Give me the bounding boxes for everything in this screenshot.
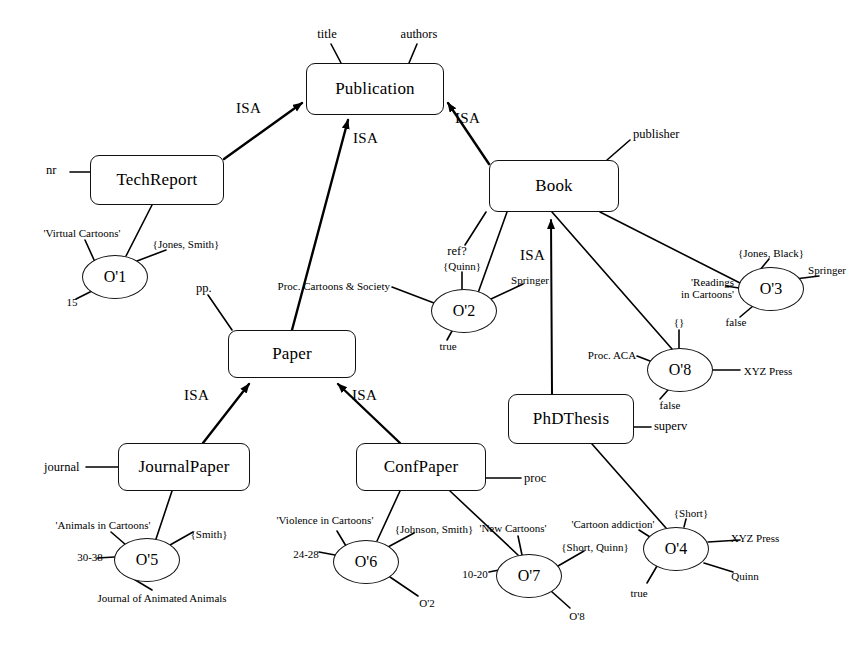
spoke-o2-ref [447,331,452,340]
stem-title [331,44,341,63]
instance-label: O'4 [665,540,687,558]
instance-node-o3[interactable]: O'3 [738,267,804,311]
value-label-o2-ref: true [439,340,456,352]
stem-pp [208,295,232,330]
stem-ref [465,212,486,245]
link-book-o8 [552,212,672,349]
value-label-o5-journal: Journal of Animated Animals [97,592,226,604]
class-label: JournalPaper [138,457,229,477]
value-label-o4-ref: true [630,587,647,599]
value-label-o8-ref: false [660,399,681,411]
attribute-label-journal: journal [44,461,79,475]
class-label: Publication [335,79,415,99]
value-label-o4-title: 'Cartoon addiction' [571,518,654,530]
instance-node-o4[interactable]: O'4 [643,527,709,571]
value-label-o3-ref: false [726,316,747,328]
isa-arrow-paper [292,120,348,330]
instance-label: O'2 [453,302,475,320]
value-label-o8-title: Proc. ACA [588,349,636,361]
spoke-o6-pp [319,552,335,555]
link-book-o3 [600,212,740,283]
isa-arrow-journalpaper [203,384,249,443]
value-label-o5-title: 'Animals in Cartoons' [55,519,150,531]
class-node-book[interactable]: Book [489,160,619,212]
value-label-o5-pp: 30-38 [77,551,103,563]
value-label-o2-publisher: Springer [511,274,549,286]
instance-label: O'6 [355,553,377,571]
isa-label-book-publication: ISA [455,110,480,127]
attribute-label-publisher: publisher [633,128,680,142]
spoke-o4-authors [684,519,686,527]
value-label-o4-authors: {Short} [674,507,708,519]
value-label-o1-authors: {Jones, Smith} [153,238,220,250]
value-label-o7-title: 'New Cartoons' [479,522,546,534]
value-label-o2-proc: Proc. Cartoons & Society [278,280,390,292]
attribute-label-pp: pp. [196,282,212,296]
spoke-o6-proc [390,577,418,596]
instance-node-o8[interactable]: O'8 [647,348,713,392]
value-label-o4-publisher: XYZ Press [731,532,780,544]
spoke-o5-authors [170,532,193,545]
isa-label-phdthesis-book: ISA [520,247,545,264]
class-node-techreport[interactable]: TechReport [90,155,224,205]
value-label-o1-nr: 15 [67,296,78,308]
instance-node-o6[interactable]: O'6 [333,540,399,584]
isa-label-confpaper-paper: ISA [352,387,377,404]
value-label-o3-authors: {Jones, Black} [738,247,804,259]
instance-node-o2[interactable]: O'2 [431,289,497,333]
attribute-label-proc: proc [524,472,546,486]
class-node-phdthesis[interactable]: PhDThesis [508,394,634,444]
class-label: Book [535,176,573,196]
value-label-o2-authors: {Quinn} [443,260,481,272]
isa-label-paper-publication: ISA [353,130,378,147]
stem-publisher [607,140,630,160]
class-label: TechReport [116,170,197,190]
spoke-o1-authors [137,250,166,261]
spoke-o2-pub [491,284,523,299]
spoke-o8-title [637,356,650,361]
value-label-o8-authors: {} [674,316,685,328]
attribute-label-ref: ref? [447,245,466,259]
value-label-o4-superv: Quinn [731,570,759,582]
class-node-confpaper[interactable]: ConfPaper [356,443,486,491]
value-line-2: in Cartoons' [681,288,734,300]
instance-label: O'1 [104,268,126,286]
value-label-o7-authors: {Short, Quinn} [561,541,628,553]
instance-node-o1[interactable]: O'1 [82,255,148,299]
stem-authors [409,44,417,63]
spoke-o4-superv [704,563,733,572]
class-node-paper[interactable]: Paper [228,330,356,378]
spoke-o1-nr [76,291,92,299]
instance-node-o5[interactable]: O'5 [114,538,180,582]
isa-arrow-phdthesis [551,220,552,394]
class-label: ConfPaper [384,457,459,477]
spoke-o7-title [518,536,522,555]
attribute-label-title: title [317,28,336,42]
link-techreport-o1 [126,205,152,256]
value-label-o7-proc: O'8 [569,610,584,622]
value-label-o6-title: 'Violence in Cartoons' [277,514,374,526]
link-book-o2 [478,212,507,293]
isa-label-techreport-publication: ISA [236,100,261,117]
value-label-o8-publisher: XYZ Press [744,365,793,377]
spoke-o6-authors [388,533,414,547]
attribute-label-nr: nr [46,164,56,178]
value-label-o6-pp: 24-28 [293,548,319,560]
instance-label: O'8 [669,361,691,379]
value-label-o6-proc: O'2 [419,597,434,609]
isa-label-journalpaper-paper: ISA [184,387,209,404]
class-label: PhDThesis [533,409,609,429]
instance-label: O'3 [760,280,782,298]
value-line-1: 'Readings [691,276,734,288]
instance-node-o7[interactable]: O'7 [496,554,562,598]
spoke-o7-proc [551,591,570,608]
class-node-journalpaper[interactable]: JournalPaper [118,443,250,491]
spoke-o8-ref [660,390,668,399]
instance-label: O'7 [518,567,540,585]
link-phdthesis-o4 [592,444,666,528]
value-label-o7-pp: 10-20 [462,568,488,580]
class-node-publication[interactable]: Publication [306,63,444,115]
er-diagram-canvas: Publication TechReport Book Paper PhDThe… [0,0,867,648]
class-label: Paper [272,344,312,364]
instance-label: O'5 [136,551,158,569]
